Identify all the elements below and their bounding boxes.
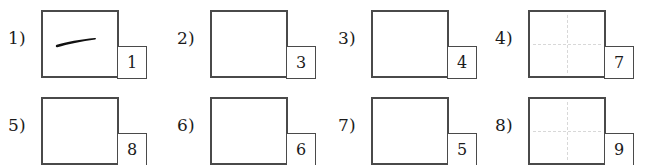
cell-index-label: 2) bbox=[177, 30, 195, 47]
cell-badge-box[interactable]: 1 bbox=[117, 46, 147, 79]
handwriting-cell-grid: 1)12)33)44)75)86)67)58)9 bbox=[0, 0, 650, 165]
cell-index-label: 4) bbox=[495, 30, 513, 47]
cell-badge-digit: 5 bbox=[457, 141, 467, 157]
drawing-canvas-box[interactable] bbox=[528, 97, 606, 165]
cell-index-label: 5) bbox=[8, 117, 26, 134]
cell-badge-digit: 4 bbox=[457, 54, 467, 70]
cell-badge-digit: 1 bbox=[127, 54, 137, 70]
cell-badge-digit: 9 bbox=[614, 141, 624, 157]
vertical-guide-line bbox=[567, 102, 568, 160]
drawing-cell[interactable]: 7)5 bbox=[330, 87, 493, 165]
cell-badge-box[interactable]: 6 bbox=[286, 133, 316, 165]
drawing-cell[interactable]: 2)3 bbox=[169, 0, 332, 82]
cell-index-label: 3) bbox=[338, 30, 356, 47]
drawing-cell[interactable]: 5)8 bbox=[0, 87, 163, 165]
drawing-cell[interactable]: 6)6 bbox=[169, 87, 332, 165]
drawing-canvas-box[interactable] bbox=[210, 97, 288, 165]
cell-badge-digit: 8 bbox=[127, 141, 137, 157]
cell-index-label: 1) bbox=[8, 30, 26, 47]
cell-badge-digit: 6 bbox=[296, 141, 306, 157]
horizontal-guide-line bbox=[533, 131, 601, 132]
drawing-canvas-box[interactable] bbox=[371, 97, 449, 165]
drawing-cell[interactable]: 3)4 bbox=[330, 0, 493, 82]
horizontal-brush-stroke-icon bbox=[43, 12, 117, 76]
cell-badge-digit: 3 bbox=[296, 54, 306, 70]
drawing-canvas-box[interactable] bbox=[528, 10, 606, 78]
cell-badge-box[interactable]: 7 bbox=[604, 46, 634, 79]
horizontal-guide-line bbox=[533, 44, 601, 45]
drawing-cell[interactable]: 1)1 bbox=[0, 0, 163, 82]
cell-index-label: 6) bbox=[177, 117, 195, 134]
cell-badge-box[interactable]: 8 bbox=[117, 133, 147, 165]
cell-badge-box[interactable]: 5 bbox=[447, 133, 477, 165]
vertical-guide-line bbox=[567, 15, 568, 73]
cell-index-label: 8) bbox=[495, 117, 513, 134]
drawing-canvas-box[interactable] bbox=[41, 10, 119, 78]
cell-badge-box[interactable]: 9 bbox=[604, 133, 634, 165]
drawing-canvas-box[interactable] bbox=[371, 10, 449, 78]
cell-badge-box[interactable]: 4 bbox=[447, 46, 477, 79]
drawing-cell[interactable]: 4)7 bbox=[487, 0, 650, 82]
cell-badge-digit: 7 bbox=[614, 54, 624, 70]
cell-index-label: 7) bbox=[338, 117, 356, 134]
drawing-cell[interactable]: 8)9 bbox=[487, 87, 650, 165]
drawing-canvas-box[interactable] bbox=[210, 10, 288, 78]
cell-badge-box[interactable]: 3 bbox=[286, 46, 316, 79]
drawing-canvas-box[interactable] bbox=[41, 97, 119, 165]
